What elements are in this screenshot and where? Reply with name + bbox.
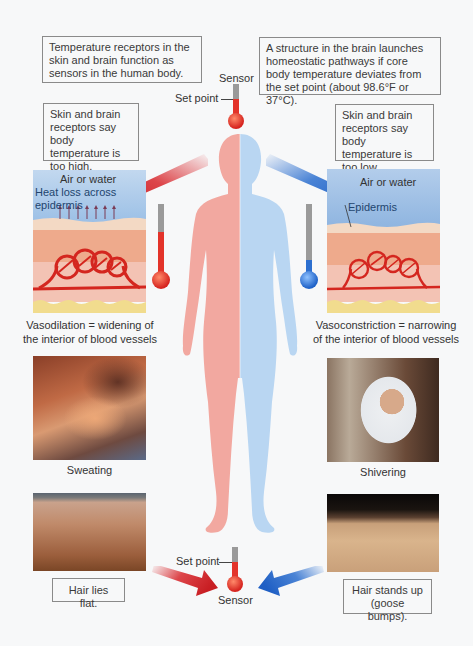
sensors-info-box: Temperature receptors in the skin and br…: [42, 36, 202, 83]
hair-flat-text: Hair lies flat.: [69, 584, 109, 609]
top-set-point-label: Set point: [175, 92, 218, 105]
cold-return-arrow: [256, 566, 324, 600]
skin-diagram-vasoconstriction: Air or water Epidermis: [327, 169, 440, 313]
skin-diagram-vasodilation: Air or water Heat loss across epidermis: [33, 170, 146, 313]
vasoconstriction-caption: Vasoconstriction = narrowing of the inte…: [310, 319, 462, 346]
goose-bumps-photo: [327, 494, 439, 572]
bottom-thermometer-icon: [225, 547, 245, 593]
hot-return-arrow: [152, 566, 220, 600]
bottom-set-point-label: Set point: [176, 555, 219, 568]
sweating-photo: [33, 356, 146, 460]
vasodilation-caption: Vasodilation = widening of the interior …: [22, 319, 158, 346]
sensors-info-text: Temperature receptors in the skin and br…: [49, 41, 190, 79]
top-thermometer-icon: [226, 84, 246, 130]
brain-info-box: A structure in the brain launches homeos…: [259, 37, 441, 95]
left-air-label: Air or water: [60, 173, 116, 186]
heat-loss-label: Heat loss across epidermis: [35, 186, 117, 212]
right-air-label: Air or water: [360, 176, 416, 189]
goose-bumps-box: Hair stands up (goose bumps).: [343, 579, 432, 614]
sweating-caption: Sweating: [33, 464, 146, 478]
epidermis-label: Epidermis: [348, 201, 397, 214]
shivering-photo: [327, 358, 439, 462]
hair-flat-photo: [33, 493, 146, 571]
cold-thermometer-icon: [298, 204, 320, 290]
brain-info-text: A structure in the brain launches homeos…: [266, 42, 423, 106]
bottom-sensor-label: Sensor: [218, 594, 253, 607]
goose-bumps-text: Hair stands up (goose bumps).: [352, 584, 423, 622]
shivering-caption: Shivering: [327, 466, 439, 480]
hot-thermometer-icon: [150, 204, 172, 290]
hair-flat-box: Hair lies flat.: [52, 578, 125, 602]
